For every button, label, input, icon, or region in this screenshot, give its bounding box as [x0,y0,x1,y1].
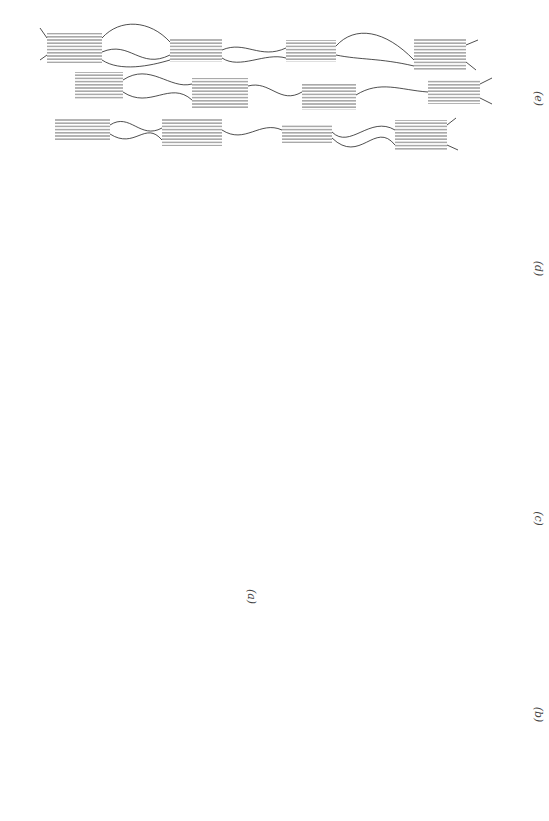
panel-label-a: (a) [245,589,258,604]
panel-label-d: (d) [532,261,545,277]
panel-e [40,24,492,150]
panel-label-e: (e) [532,91,545,106]
lamella-block [192,78,248,108]
lamella-block [170,38,222,62]
lamella-block [286,40,336,62]
lamella-block [428,80,480,104]
lamella-block [75,72,123,100]
panel-label-c: (c) [532,511,545,526]
lamella-block [55,118,110,140]
lamellae-deformation-diagram [0,0,549,821]
lamella-block [282,125,332,143]
lamella-block [395,120,447,150]
lamella-block [302,84,356,110]
lamella-block [414,38,466,70]
lamella-block [47,33,102,63]
lamella-block [162,118,222,146]
panel-label-b: (b) [532,707,545,723]
